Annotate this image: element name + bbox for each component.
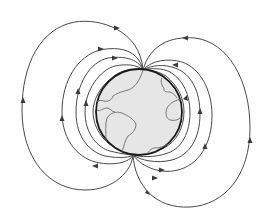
arrow-icon bbox=[182, 36, 188, 41]
arrow-icon bbox=[21, 97, 26, 103]
arrow-icon bbox=[92, 164, 98, 169]
arrow-icon bbox=[248, 137, 253, 143]
arrow-icon bbox=[152, 176, 158, 181]
arrow-icon bbox=[112, 56, 118, 61]
arrow-icon bbox=[84, 100, 89, 106]
arrow-icon bbox=[60, 115, 65, 121]
arrow-icon bbox=[198, 108, 203, 114]
magnetic-field-diagram bbox=[0, 0, 266, 223]
arrow-icon bbox=[98, 47, 104, 52]
arrow-icon bbox=[172, 63, 178, 68]
globe-body bbox=[96, 69, 182, 155]
earth-globe bbox=[96, 69, 182, 155]
